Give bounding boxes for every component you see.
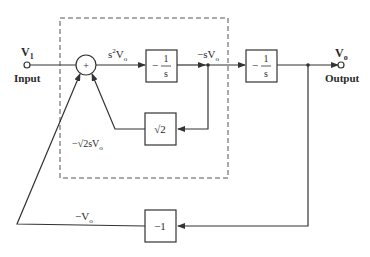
block-diagram: V1 Input + s2Vo − 1 s −sVo − 1 s: [0, 0, 370, 257]
svg-text:−: −: [252, 59, 258, 71]
integrator-block-2: − 1 s: [246, 50, 277, 82]
svg-text:−1: −1: [154, 220, 166, 232]
svg-text:−: −: [152, 59, 158, 71]
input-label: Input: [14, 72, 41, 84]
svg-text:√2: √2: [154, 123, 166, 135]
svg-text:1: 1: [264, 53, 269, 64]
signal-label-neg-vo: −Vo: [75, 210, 93, 225]
svg-text:V1: V1: [21, 45, 34, 61]
signal-label-s2vo: s2Vo: [108, 47, 128, 63]
subsystem-dashed-boundary: [60, 18, 228, 178]
gain-block-sqrt2: √2: [145, 113, 176, 145]
output-label: Output: [325, 72, 360, 84]
gain-block-neg1: −1: [145, 210, 176, 242]
svg-text:1: 1: [164, 53, 169, 64]
plus-sign: +: [83, 60, 89, 71]
integrator-block-1: − 1 s: [146, 50, 177, 82]
svg-text:s: s: [264, 68, 268, 79]
svg-text:Vo: Vo: [335, 46, 348, 62]
svg-text:s: s: [164, 68, 168, 79]
summing-junction: +: [76, 55, 96, 75]
signal-label-neg-svo: −sVo: [197, 48, 219, 63]
signal-label-neg-sqrt2-svo: −√2sVo: [72, 138, 103, 152]
